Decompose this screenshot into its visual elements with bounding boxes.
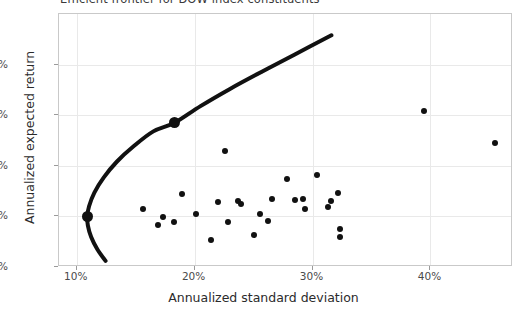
asset-scatter-point — [155, 222, 161, 228]
x-axis-tick-label: 20% — [182, 270, 205, 282]
asset-scatter-point — [208, 237, 214, 243]
x-axis-label: Annualized standard deviation — [0, 290, 527, 305]
asset-scatter-point — [179, 191, 185, 197]
asset-scatter-point — [257, 211, 263, 217]
chart-title: Efficient frontier for DOW index constit… — [60, 0, 320, 6]
y-axis-label: Annualized expected return — [22, 18, 37, 258]
y-axis-tick-mark — [54, 266, 58, 267]
frontier-portfolio-marker — [82, 211, 93, 222]
asset-scatter-point — [337, 234, 343, 240]
y-axis-tick-label: 10% — [0, 209, 8, 221]
asset-scatter-point — [251, 232, 257, 238]
asset-scatter-point — [160, 214, 166, 220]
x-axis-tick-mark — [429, 266, 430, 270]
x-axis-tick-label: 40% — [418, 270, 441, 282]
x-axis-tick-mark — [312, 266, 313, 270]
asset-scatter-point — [337, 226, 343, 232]
plot-area — [58, 13, 512, 266]
asset-scatter-point — [222, 148, 228, 154]
asset-scatter-point — [171, 219, 177, 225]
asset-scatter-point — [193, 211, 199, 217]
asset-scatter-point — [492, 140, 498, 146]
asset-scatter-point — [300, 196, 306, 202]
y-axis-tick-label: 0% — [0, 260, 8, 272]
asset-scatter-point — [314, 172, 320, 178]
frontier-line — [87, 35, 331, 261]
y-axis-tick-label: 30% — [0, 108, 8, 120]
asset-scatter-point — [325, 204, 331, 210]
y-axis-tick-label: 40% — [0, 58, 8, 70]
x-axis-tick-mark — [76, 266, 77, 270]
y-axis-tick-label: 20% — [0, 159, 8, 171]
asset-scatter-point — [328, 198, 334, 204]
asset-scatter-point — [284, 176, 290, 182]
chart-figure: Efficient frontier for DOW index constit… — [0, 0, 527, 314]
x-axis-tick-mark — [194, 266, 195, 270]
x-axis-tick-label: 30% — [300, 270, 323, 282]
asset-scatter-point — [421, 108, 427, 114]
x-axis-tick-label: 10% — [64, 270, 87, 282]
efficient-frontier-curve — [59, 14, 512, 266]
